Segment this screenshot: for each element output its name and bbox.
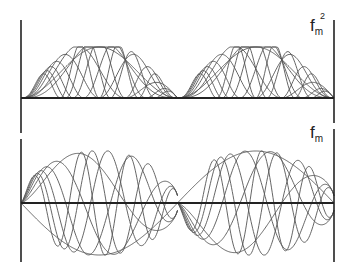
bottom-label-sub: m bbox=[315, 133, 323, 144]
mode-curve bbox=[178, 47, 335, 98]
top-panel-label: fm2 bbox=[310, 16, 323, 36]
bottom-panel-label: fm bbox=[310, 123, 323, 143]
top-label-sub: m bbox=[315, 26, 323, 37]
mode-curve bbox=[21, 203, 178, 255]
mode-curve bbox=[178, 151, 335, 203]
top-label-sup: 2 bbox=[320, 11, 325, 21]
mode-functions-diagram bbox=[0, 0, 349, 274]
top-curves bbox=[21, 47, 334, 98]
mode-curve bbox=[21, 47, 178, 98]
